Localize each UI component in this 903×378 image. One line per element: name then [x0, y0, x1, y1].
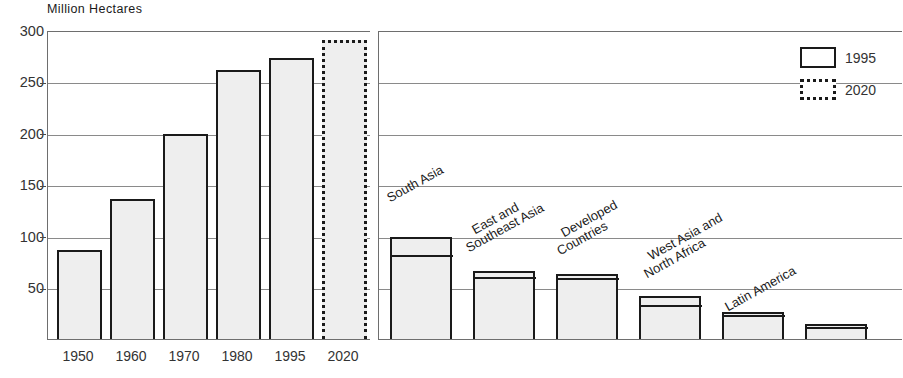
bar-latin-america-1995-level — [722, 315, 785, 318]
x-tick-label-1960: 1960 — [115, 348, 146, 364]
gridline-100-right — [379, 238, 902, 239]
bar-east-and-southeast-asia[interactable] — [473, 271, 535, 339]
bar-1980[interactable] — [216, 70, 261, 339]
gridline-150-right — [379, 186, 902, 187]
legend-label-1995: 1995 — [845, 50, 876, 66]
x-tick-label-1950: 1950 — [62, 348, 93, 364]
bar-developed-countries[interactable] — [556, 274, 618, 339]
bar-unlabeled-region[interactable] — [805, 324, 867, 339]
y-axis: 300 250 200 150 100 50 — [0, 0, 44, 378]
plot-area-timeline — [47, 31, 370, 340]
bar-south-asia-1995-level — [390, 255, 453, 258]
bar-west-asia-and-north-africa-1995-level — [639, 305, 702, 308]
bar-1950[interactable] — [57, 250, 102, 339]
x-tick-label-1970: 1970 — [168, 348, 199, 364]
y-tick-label-200: 200 — [4, 126, 44, 142]
y-axis-title: Million Hectares — [47, 2, 142, 16]
bar-unlabeled-region-1995-level — [805, 327, 868, 330]
gridline-50-right — [379, 289, 902, 290]
legend-swatch-solid-icon — [800, 47, 836, 68]
y-tick-label-250: 250 — [4, 74, 44, 90]
legend-item-1995[interactable]: 1995 — [800, 44, 896, 71]
bar-1970[interactable] — [163, 134, 208, 339]
chart-container: Million Hectares 300 250 200 150 100 50 … — [0, 0, 903, 378]
x-tick-label-2020: 2020 — [327, 348, 358, 364]
legend-item-2020[interactable]: 2020 — [800, 76, 896, 103]
y-tick-label-100: 100 — [4, 229, 44, 245]
bar-south-asia[interactable] — [390, 237, 452, 339]
bar-1960[interactable] — [110, 199, 155, 339]
legend-label-2020: 2020 — [845, 82, 876, 98]
y-tick-mark-50 — [40, 289, 46, 290]
legend: 1995 2020 — [800, 44, 896, 108]
x-tick-label-1995: 1995 — [274, 348, 305, 364]
bar-latin-america[interactable] — [722, 312, 784, 339]
bar-2020[interactable] — [322, 40, 367, 339]
y-tick-label-150: 150 — [4, 177, 44, 193]
y-tick-mark-150 — [40, 186, 46, 187]
y-tick-mark-100 — [40, 237, 46, 238]
legend-swatch-dotted-icon — [800, 79, 836, 100]
bar-west-asia-and-north-africa[interactable] — [639, 296, 701, 339]
y-tick-label-50: 50 — [4, 280, 44, 296]
x-tick-label-1980: 1980 — [221, 348, 252, 364]
y-tick-label-300: 300 — [4, 23, 44, 39]
y-tick-mark-250 — [40, 83, 46, 84]
bar-developed-countries-1995-level — [556, 278, 619, 281]
bar-1995[interactable] — [269, 58, 314, 339]
y-tick-mark-200 — [40, 134, 46, 135]
bar-east-and-southeast-asia-1995-level — [473, 277, 536, 280]
gridline-200-right — [379, 135, 902, 136]
